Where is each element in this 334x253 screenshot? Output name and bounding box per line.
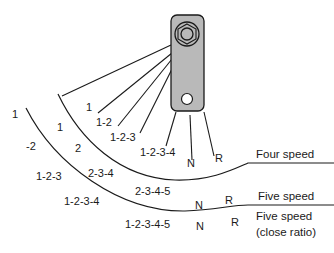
row-title-five-speed: Five speed	[258, 191, 314, 203]
gear-label: 2-3-4-5	[135, 186, 170, 197]
gear-label: -2	[26, 141, 36, 152]
row-title-four-speed: Four speed	[256, 149, 314, 161]
gear-label-reverse: R	[225, 195, 233, 206]
gear-label: 1-2	[96, 117, 112, 128]
gear-label-reverse: R	[215, 153, 223, 164]
gear-label-neutral: N	[195, 200, 203, 211]
row-title-close-ratio-line2: (close ratio)	[256, 227, 316, 239]
gear-label: 1-2-3-4-5	[125, 219, 170, 230]
gear-label: 1-2-3	[110, 132, 136, 143]
row-title-close-ratio-line1: Five speed	[256, 211, 312, 223]
gear-label: 1	[12, 109, 18, 120]
gear-label-neutral: N	[187, 158, 195, 169]
gear-shift-diagram: 1 1-2 1-2-3 1-2-3-4 N R 1 2 2-3-4 2-3-4-…	[0, 0, 334, 253]
gear-label: 2-3-4	[88, 168, 114, 179]
gear-label-neutral: N	[196, 221, 204, 232]
gear-label: 1-2-3-4	[64, 196, 99, 207]
gear-label: 1	[86, 102, 92, 113]
gear-label-reverse: R	[231, 217, 239, 228]
selector-lever	[171, 15, 204, 111]
gear-label: 2	[75, 143, 81, 154]
gear-label: 1-2-3-4	[140, 147, 175, 158]
gear-label: 1-2-3	[36, 171, 62, 182]
gear-label: 1	[57, 122, 63, 133]
